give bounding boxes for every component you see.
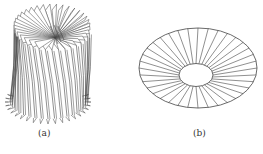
bottom-tooth [11, 111, 17, 114]
inner-ellipse [179, 64, 213, 87]
bottom-tooth [71, 115, 76, 119]
panel-a-label: (a) [38, 128, 50, 138]
radial-spoke [202, 86, 218, 106]
radial-spoke [199, 86, 208, 107]
bottom-tooth [53, 119, 56, 124]
radial-spoke [140, 61, 179, 73]
radial-spoke [143, 79, 180, 82]
fin-edge [54, 51, 63, 118]
radial-spoke [178, 86, 190, 106]
radial-spoke [213, 68, 257, 75]
bottom-tooth [40, 119, 43, 124]
bottom-tooth [33, 118, 36, 123]
bottom-tooth [47, 119, 50, 124]
bottom-tooth [66, 117, 70, 121]
radial-spoke [169, 85, 188, 103]
fin-edge [19, 40, 24, 115]
bottom-tooth [84, 105, 90, 106]
fin-edge [45, 50, 54, 119]
radial-spoke [207, 84, 236, 99]
fin-edge [41, 50, 50, 119]
radial-spoke [140, 75, 179, 77]
bottom-tooth [27, 117, 31, 121]
radial-spoke [188, 86, 193, 107]
radial-spoke [199, 29, 208, 64]
panel-b-label: (b) [193, 128, 206, 138]
radial-spoke [196, 28, 198, 64]
panel-b-radial-disk [139, 28, 257, 108]
bottom-tooth [6, 105, 12, 106]
bottom-tooth [76, 113, 81, 116]
radial-spoke [202, 30, 218, 64]
bottom-tooth [8, 108, 14, 110]
radial-spoke [213, 61, 256, 73]
radial-spoke [188, 29, 193, 64]
bottom-tooth [84, 98, 90, 99]
bottom-tooth [79, 111, 85, 114]
fin-edge [47, 51, 56, 119]
radial-spoke [147, 81, 181, 88]
radial-spoke [213, 75, 256, 77]
radial-spoke [196, 87, 198, 109]
radial-spoke [209, 42, 243, 67]
bottom-tooth [20, 115, 25, 119]
bottom-tooth [82, 94, 88, 96]
fin-edge [25, 44, 31, 117]
radial-spoke [139, 68, 179, 75]
bottom-tooth [15, 113, 20, 116]
bottom-tooth [59, 118, 62, 123]
radial-spoke [211, 81, 249, 88]
fin-edge [23, 43, 29, 117]
panel-a-fin-cylinder [5, 4, 91, 124]
radial-spoke [212, 79, 253, 82]
